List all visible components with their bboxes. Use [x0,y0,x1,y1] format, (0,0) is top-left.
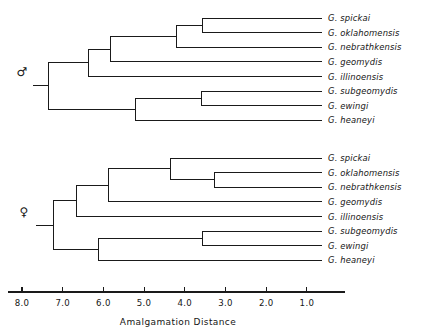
leaf-label-g-heaneyi: G. heaneyi [328,115,375,125]
axis-tick-label-3-0: 3.0 [218,298,233,308]
axis-tick-label-1-0: 1.0 [300,298,315,308]
leaf-label-g-nebrathkensis: G. nebrathkensis [328,182,402,192]
leaf-label-g-oklahomensis: G. oklahomensis [328,28,400,38]
x-axis: 8.07.06.05.04.03.02.01.0Amalgamation Dis… [8,287,345,327]
leaf-label-g-geomydis: G. geomydis [328,197,383,207]
leaf-label-g-nebrathkensis: G. nebrathkensis [328,42,402,52]
axis-title: Amalgamation Distance [120,317,236,327]
leaf-label-g-illinoensis: G. illinoensis [328,212,384,222]
leaf-label-g-spickai: G. spickai [328,13,371,23]
axis-tick-label-4-0: 4.0 [178,298,193,308]
sex-symbol-male: ♂ [17,65,28,79]
female-dendrogram: ♀G. spickaiG. oklahomensisG. nebrathkens… [20,153,402,265]
axis-tick-label-6-0: 6.0 [96,298,111,308]
sex-symbol-female: ♀ [20,205,29,219]
leaf-label-g-subgeomydis: G. subgeomydis [328,86,398,96]
leaf-label-g-ewingi: G. ewingi [328,241,369,251]
leaf-label-g-subgeomydis: G. subgeomydis [328,226,398,236]
axis-tick-label-5-0: 5.0 [137,298,152,308]
leaf-label-g-geomydis: G. geomydis [328,57,383,67]
axis-tick-label-7-0: 7.0 [55,298,70,308]
dendrogram-figure: ♂G. spickaiG. oklahomensisG. nebrathkens… [0,0,447,336]
leaf-label-g-spickai: G. spickai [328,153,371,163]
axis-tick-label-8-0: 8.0 [15,298,30,308]
leaf-label-g-illinoensis: G. illinoensis [328,72,384,82]
leaf-label-g-heaneyi: G. heaneyi [328,255,375,265]
axis-tick-label-2-0: 2.0 [259,298,274,308]
dendrogram-canvas: ♂G. spickaiG. oklahomensisG. nebrathkens… [0,0,447,336]
leaf-label-g-ewingi: G. ewingi [328,101,369,111]
male-dendrogram: ♂G. spickaiG. oklahomensisG. nebrathkens… [17,13,402,125]
leaf-label-g-oklahomensis: G. oklahomensis [328,168,400,178]
